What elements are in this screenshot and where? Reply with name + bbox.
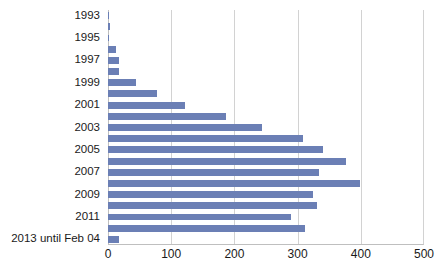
bar-row[interactable]: [108, 46, 424, 53]
y-axis-tick-label: 1995: [74, 32, 100, 43]
bar-chart: 1993199519971999200120032005200720092011…: [0, 0, 443, 268]
bar-row[interactable]: [108, 202, 424, 209]
bar-row[interactable]: [108, 169, 424, 176]
bar-row[interactable]: [108, 79, 424, 86]
bar[interactable]: [108, 57, 119, 64]
y-axis-tick-label: 2013 until Feb 04: [11, 233, 100, 244]
bar-row[interactable]: [108, 35, 424, 42]
bar-row[interactable]: [108, 135, 424, 142]
bar[interactable]: [108, 23, 110, 30]
bar[interactable]: [108, 135, 303, 142]
y-axis-tick-label: 2007: [74, 166, 100, 177]
bar[interactable]: [108, 113, 226, 120]
bar-row[interactable]: [108, 57, 424, 64]
x-axis-tick-label: 300: [288, 247, 308, 261]
y-axis-tick-label: 2001: [74, 99, 100, 110]
y-axis-tick-label: 2011: [75, 211, 100, 222]
bar-row[interactable]: [108, 236, 424, 243]
x-axis-tick-label: 500: [414, 247, 434, 261]
y-axis-tick-label: 2005: [74, 144, 100, 155]
bar-row[interactable]: [108, 225, 424, 232]
bar[interactable]: [108, 102, 185, 109]
bar[interactable]: [108, 90, 157, 97]
y-axis-tick-label: 1997: [74, 54, 100, 65]
y-axis-labels: 1993199519971999200120032005200720092011…: [0, 10, 104, 245]
y-axis-tick-label: 2009: [74, 189, 100, 200]
bar[interactable]: [108, 180, 360, 187]
x-axis-tick-label: 400: [351, 247, 371, 261]
bar-row[interactable]: [108, 158, 424, 165]
bar[interactable]: [108, 169, 319, 176]
bar-row[interactable]: [108, 191, 424, 198]
bar[interactable]: [108, 202, 317, 209]
y-axis-tick-label: 1993: [74, 10, 100, 21]
bar[interactable]: [108, 146, 323, 153]
x-axis-tick-label: 200: [224, 247, 244, 261]
bar-series: [108, 10, 423, 244]
bar[interactable]: [108, 68, 119, 75]
bar-row[interactable]: [108, 180, 424, 187]
bar[interactable]: [108, 35, 109, 42]
bar-row[interactable]: [108, 102, 424, 109]
bar-row[interactable]: [108, 12, 424, 19]
bar[interactable]: [108, 191, 313, 198]
x-axis-tick-label: 100: [161, 247, 181, 261]
bar-row[interactable]: [108, 146, 424, 153]
bar[interactable]: [108, 225, 305, 232]
bar[interactable]: [108, 46, 116, 53]
bar[interactable]: [108, 236, 119, 243]
y-axis-tick-label: 2003: [74, 122, 100, 133]
bar[interactable]: [108, 12, 109, 19]
bar[interactable]: [108, 158, 346, 165]
bar[interactable]: [108, 79, 136, 86]
bar-row[interactable]: [108, 23, 424, 30]
bar-row[interactable]: [108, 214, 424, 221]
bar-row[interactable]: [108, 90, 424, 97]
plot-area: [108, 10, 424, 245]
bar[interactable]: [108, 214, 291, 221]
x-axis-tick-label: 0: [105, 247, 112, 261]
bar-row[interactable]: [108, 124, 424, 131]
x-axis-labels: 0100200300400500: [108, 247, 424, 265]
y-axis-tick-label: 1999: [74, 77, 100, 88]
bar-row[interactable]: [108, 68, 424, 75]
bar[interactable]: [108, 124, 262, 131]
bar-row[interactable]: [108, 113, 424, 120]
